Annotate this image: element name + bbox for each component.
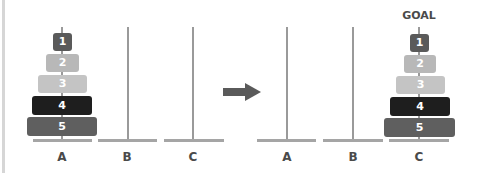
goal-disk-1: 1 <box>410 34 429 52</box>
peg-label-a: A <box>52 150 72 164</box>
pole-b <box>127 27 129 140</box>
disk-2: 2 <box>46 54 79 72</box>
goal-disk-3: 3 <box>396 76 445 94</box>
goal-pole-b <box>352 27 354 140</box>
base-b <box>98 139 157 142</box>
goal-base-b <box>323 139 383 142</box>
goal-base-c <box>389 139 449 142</box>
peg-label-b: B <box>117 150 137 164</box>
disk-1: 1 <box>53 33 72 51</box>
goal-pole-a <box>286 27 288 140</box>
goal-disk-2: 2 <box>404 55 436 73</box>
disk-5: 5 <box>27 117 97 136</box>
disk-4: 4 <box>32 96 92 115</box>
disk-3: 3 <box>38 75 87 93</box>
base-a <box>33 139 92 142</box>
arrow-right-icon <box>223 83 263 101</box>
goal-peg-label-c: C <box>409 150 429 164</box>
base-c <box>164 139 224 142</box>
goal-base-a <box>257 139 316 142</box>
peg-label-c: C <box>183 150 203 164</box>
pole-c <box>192 27 194 140</box>
frame-left-border <box>2 0 5 173</box>
goal-peg-label-b: B <box>343 150 363 164</box>
goal-disk-4: 4 <box>390 97 450 116</box>
goal-peg-label-a: A <box>277 150 297 164</box>
goal-disk-5: 5 <box>384 118 455 137</box>
goal-label: GOAL <box>394 9 444 22</box>
